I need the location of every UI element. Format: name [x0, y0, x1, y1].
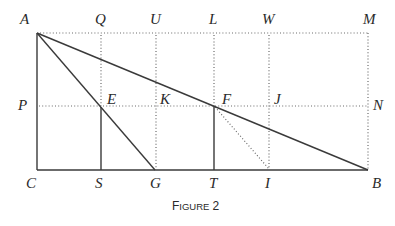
label-W: W: [262, 11, 276, 27]
label-A: A: [19, 11, 30, 27]
label-C: C: [26, 175, 37, 191]
label-N: N: [372, 97, 384, 113]
label-I: I: [264, 175, 271, 191]
line-AG: [37, 33, 155, 170]
solid-lines: [37, 33, 368, 170]
label-M: M: [362, 11, 377, 27]
label-F: F: [221, 91, 232, 107]
label-E: E: [106, 91, 116, 107]
label-U: U: [150, 11, 162, 27]
label-T: T: [209, 175, 219, 191]
caption-initial: F: [172, 199, 179, 213]
label-G: G: [150, 175, 161, 191]
label-Q: Q: [95, 11, 106, 27]
figure-caption: FIGURE2: [172, 199, 219, 213]
line-AB: [37, 33, 368, 170]
geometry-diagram: A Q U L W M P E K F J N C S G T I B FIGU…: [0, 0, 395, 226]
label-L: L: [208, 11, 217, 27]
label-S: S: [95, 175, 103, 191]
label-K: K: [159, 91, 171, 107]
label-B: B: [372, 175, 381, 191]
label-P: P: [17, 97, 27, 113]
line-FI: [215, 107, 269, 169]
label-J: J: [274, 91, 282, 107]
caption-number: 2: [212, 199, 219, 213]
caption-smallcaps: IGURE: [179, 201, 209, 212]
